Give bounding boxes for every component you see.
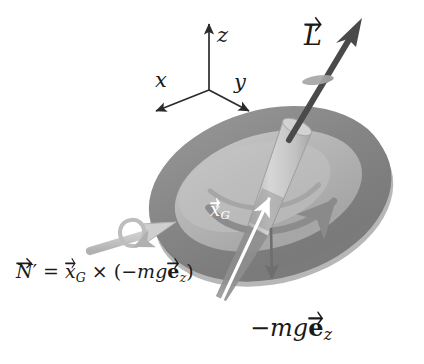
torque-equation: N ′= x G×(−mg e z) <box>16 262 194 284</box>
axis-label-y: y <box>234 72 246 93</box>
ez-subscript-bottom: z <box>324 325 333 344</box>
xG-subscript-eq: G <box>76 270 86 285</box>
minus-mg-term-bottom: −mg <box>250 314 308 342</box>
center-of-mass-label: x G <box>210 201 230 222</box>
N-vector-symbol: N <box>16 262 33 281</box>
minus-mg-term: −mg <box>121 260 167 282</box>
xG-letter-eq: x <box>65 260 76 282</box>
angular-momentum-label: L <box>304 22 322 49</box>
ez-vector-symbol-bottom: e <box>308 316 323 340</box>
ez-vector-symbol-eq: e <box>167 262 179 281</box>
axis-label-x: x <box>155 70 167 91</box>
L-letter: L <box>304 20 322 51</box>
weight-label: −mg e z <box>250 316 332 343</box>
axis-x-line <box>156 90 209 111</box>
diagram-canvas <box>0 0 424 364</box>
axis-label-z: z <box>217 25 228 46</box>
weight-arrow-shaft <box>271 228 272 278</box>
coordinate-axes <box>156 24 249 111</box>
xG-letter: x <box>210 199 220 220</box>
e-letter-eq: e <box>167 260 179 282</box>
N-letter: N <box>16 260 33 282</box>
equals-symbol: = <box>37 260 65 282</box>
xG-subscript: G <box>220 208 230 222</box>
e-letter-bottom: e <box>308 313 323 342</box>
L-vector-symbol: L <box>304 22 322 49</box>
weight-vector <box>271 228 272 278</box>
xG-vector-symbol: x <box>210 201 220 219</box>
xG-vector-symbol-eq: x <box>65 262 76 281</box>
physics-diagram: z x y L x G <box>0 0 424 364</box>
close-paren: ) <box>186 260 193 282</box>
cross-product-symbol: × <box>86 260 114 282</box>
